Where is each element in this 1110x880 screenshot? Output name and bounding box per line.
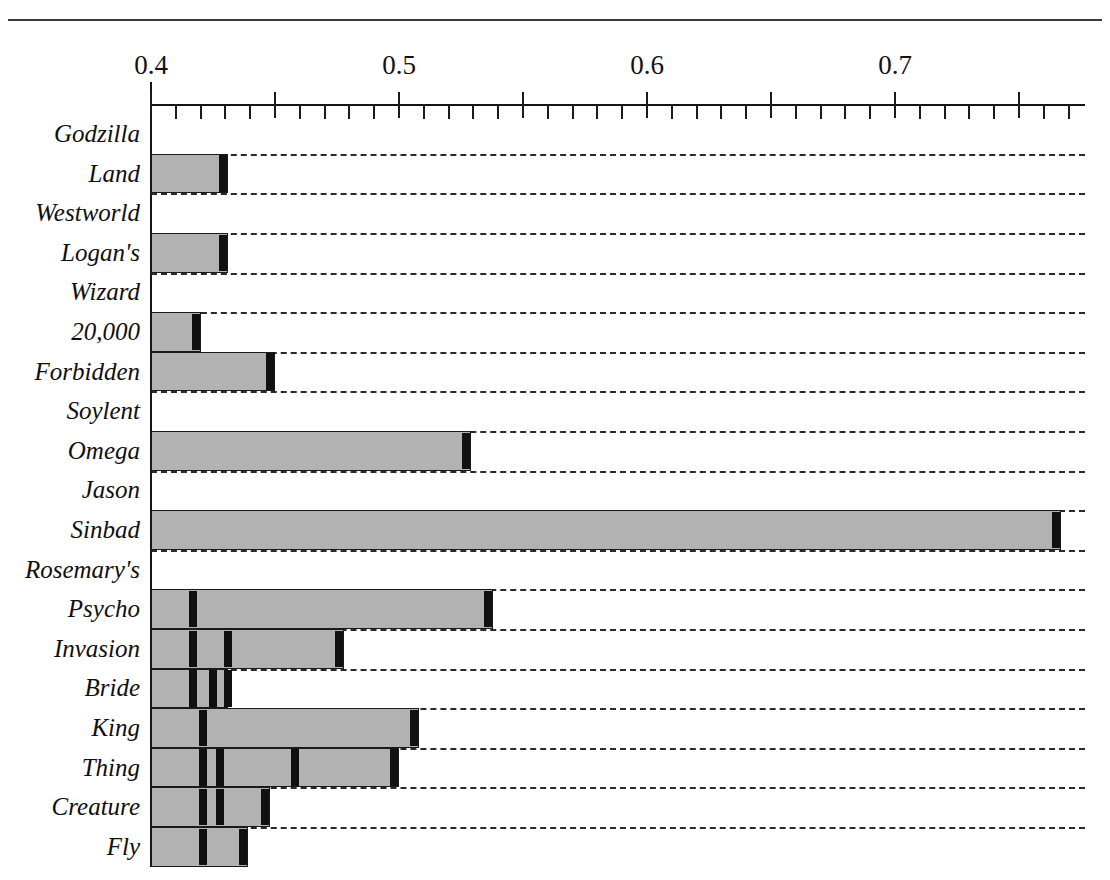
bar-chart-plot: 0.40.50.60.7GodzillaLandWestworldLogan's… xyxy=(0,0,1110,880)
grid-line xyxy=(151,233,1085,235)
bar-interval-marker xyxy=(189,591,197,628)
bar[interactable] xyxy=(151,787,270,827)
bar-interval-marker xyxy=(199,749,207,786)
bar[interactable] xyxy=(151,233,228,273)
x-axis-tick-minor xyxy=(497,105,499,119)
x-axis-tick-minor xyxy=(720,105,722,119)
bar-end-cap xyxy=(484,591,492,628)
x-axis-tick-minor xyxy=(869,105,871,119)
x-axis-tick-minor xyxy=(596,105,598,119)
bar[interactable] xyxy=(151,708,419,748)
bar[interactable] xyxy=(151,352,275,392)
bar-interval-marker xyxy=(216,789,224,826)
bar-interval-marker xyxy=(199,829,207,866)
category-label: Wizard xyxy=(0,278,140,306)
bar[interactable] xyxy=(151,510,1061,550)
x-axis-tick-minor xyxy=(671,105,673,119)
x-axis-tick-minor xyxy=(795,105,797,119)
x-axis-tick-minor xyxy=(423,105,425,119)
bar-interval-marker xyxy=(199,789,207,826)
x-axis-tick-minor xyxy=(348,105,350,119)
figure-root: 0.40.50.60.7GodzillaLandWestworldLogan's… xyxy=(0,0,1110,880)
category-label: Soylent xyxy=(0,397,140,425)
category-label: Sinbad xyxy=(0,516,140,544)
category-label: Omega xyxy=(0,437,140,465)
x-axis-tick-minor xyxy=(472,105,474,119)
bar-interval-marker xyxy=(291,749,299,786)
category-label: Creature xyxy=(0,793,140,821)
category-label: Godzilla xyxy=(0,120,140,148)
grid-line xyxy=(151,827,1085,829)
bar-end-cap xyxy=(462,433,470,470)
grid-line xyxy=(151,550,1085,552)
grid-line xyxy=(151,352,1085,354)
x-axis-tick-minor xyxy=(1043,105,1045,119)
x-axis-tick-label: 0.6 xyxy=(630,50,664,81)
x-axis-tick-minor xyxy=(745,105,747,119)
category-label: Land xyxy=(0,160,140,188)
x-axis-tick-minor xyxy=(919,105,921,119)
x-axis-tick-minor xyxy=(696,105,698,119)
bar-end-cap xyxy=(335,631,343,668)
bar[interactable] xyxy=(151,629,344,669)
x-axis-tick-minor xyxy=(993,105,995,119)
x-axis-tick-minor xyxy=(572,105,574,119)
bar-interval-marker xyxy=(189,670,197,707)
x-axis-tick-label: 0.4 xyxy=(134,50,168,81)
bar-end-cap xyxy=(192,314,200,351)
grid-line xyxy=(151,312,1085,314)
category-label: Westworld xyxy=(0,199,140,227)
bar-end-cap xyxy=(1052,512,1060,549)
bar-end-cap xyxy=(219,155,227,192)
bar-interval-marker xyxy=(209,670,217,707)
x-axis-tick-minor xyxy=(200,105,202,119)
x-axis-tick-minor xyxy=(547,105,549,119)
bar[interactable] xyxy=(151,748,399,788)
bar[interactable] xyxy=(151,431,471,471)
bar-interval-marker xyxy=(216,749,224,786)
x-axis-tick-minor xyxy=(175,105,177,119)
category-label: Fly xyxy=(0,833,140,861)
x-axis-tick-major xyxy=(770,92,772,118)
category-label: Logan's xyxy=(0,239,140,267)
x-axis-tick-minor xyxy=(1068,105,1070,119)
x-axis-tick-major xyxy=(150,92,152,118)
x-axis-tick-minor xyxy=(299,105,301,119)
x-axis-tick-major xyxy=(522,92,524,118)
x-axis-tick-major xyxy=(894,92,896,118)
grid-line xyxy=(151,391,1085,393)
bar-interval-marker xyxy=(199,710,207,747)
category-label: Psycho xyxy=(0,595,140,623)
x-axis-tick-minor xyxy=(373,105,375,119)
x-axis-tick-major xyxy=(1018,92,1020,118)
x-axis-tick-label: 0.7 xyxy=(878,50,912,81)
x-axis-tick-minor xyxy=(249,105,251,119)
x-axis-tick-minor xyxy=(324,105,326,119)
category-label: Thing xyxy=(0,754,140,782)
category-label: Bride xyxy=(0,674,140,702)
x-axis-tick-minor xyxy=(844,105,846,119)
category-label: Forbidden xyxy=(0,358,140,386)
bar-end-cap xyxy=(261,789,269,826)
x-axis-tick-minor xyxy=(944,105,946,119)
grid-line xyxy=(151,471,1085,473)
bar-end-cap xyxy=(410,710,418,747)
x-axis-tick-major xyxy=(646,92,648,118)
x-axis-tick-minor xyxy=(820,105,822,119)
bar-end-cap xyxy=(266,353,274,390)
x-axis-tick-major xyxy=(274,92,276,118)
grid-line xyxy=(151,154,1085,156)
bar-interval-marker xyxy=(189,631,197,668)
x-axis-tick-minor xyxy=(968,105,970,119)
category-label: Jason xyxy=(0,476,140,504)
bar-end-cap xyxy=(239,829,247,866)
bar[interactable] xyxy=(151,154,228,194)
grid-line xyxy=(151,669,1085,671)
bar-end-cap xyxy=(390,749,398,786)
category-label: 20,000 xyxy=(0,318,140,346)
grid-line xyxy=(151,193,1085,195)
bar[interactable] xyxy=(151,589,493,629)
bar-interval-marker xyxy=(224,631,232,668)
x-axis-tick-major xyxy=(398,92,400,118)
bar-interval-marker xyxy=(224,670,232,707)
